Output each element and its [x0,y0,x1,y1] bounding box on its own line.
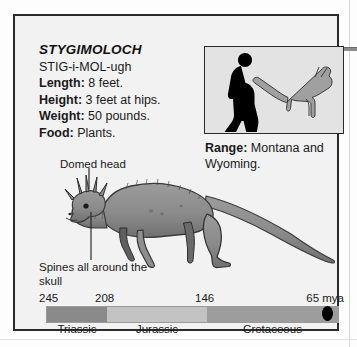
dinosaur-fact-card: STYGIMOLOCH STIG-i-MOL-ugh Length: 8 fee… [13,14,339,331]
timeline-tick-146: 146 [195,292,214,304]
timeline-range-marker [322,306,333,321]
annotation-spines-skull: Spines all around the skull [39,261,149,288]
timeline-segment-triassic [47,307,107,322]
timeline-label-cretaceous: Cretaceous [207,323,338,335]
fact-length: Length: 8 feet. [39,75,204,92]
scale-comparison-graphic [205,47,342,132]
dinosaur-body [101,184,213,238]
dinosaur-hindleg-far [184,222,195,263]
fact-height-value: 3 feet at hips. [82,93,161,107]
timeline-ticks: 245 208 146 65 mya [39,292,344,306]
timeline-period-labels: Triassic Jurassic Cretaceous [39,323,344,339]
fact-height-label: Height: [39,93,82,107]
fact-length-label: Length: [39,76,85,90]
timeline-bar [46,306,339,323]
range-label: Range: [205,141,247,155]
dinosaur-tail [205,196,335,263]
species-info-block: STYGIMOLOCH STIG-i-MOL-ugh Length: 8 fee… [39,42,204,141]
fact-weight-value: 50 pounds. [85,109,150,123]
timeline-tick-245: 245 [39,292,58,304]
dinosaur-nostril [68,213,71,216]
scale-comparison-box [204,46,344,134]
page-title: STYGIMOLOCH [39,42,204,58]
timeline-tick-208: 208 [95,292,114,304]
fact-food-label: Food: [39,126,74,140]
fact-food-value: Plants. [74,126,116,140]
timeline-tick-65: 65 mya [306,292,344,304]
fact-food: Food: Plants. [39,125,204,142]
geologic-timeline: 245 208 146 65 mya Triassic Jurassic Cre… [39,292,344,340]
fact-length-value: 8 feet. [85,76,123,90]
human-figure-silhouette [222,53,258,132]
stygimoloch-silhouette [253,67,332,118]
annotation-domed-head: Domed head [60,158,126,172]
pronunciation-guide: STIG-i-MOL-ugh [39,59,204,75]
timeline-label-triassic: Triassic [47,323,107,335]
fact-weight: Weight: 50 pounds. [39,108,204,125]
dinosaur-eye [83,203,88,208]
fact-weight-label: Weight: [39,109,85,123]
dinosaur-hindleg-near [203,214,230,268]
timeline-segment-jurassic [107,307,207,322]
fact-height: Height: 3 feet at hips. [39,92,204,109]
timeline-segment-cretaceous [207,307,338,322]
timeline-label-jurassic: Jurassic [107,323,207,335]
